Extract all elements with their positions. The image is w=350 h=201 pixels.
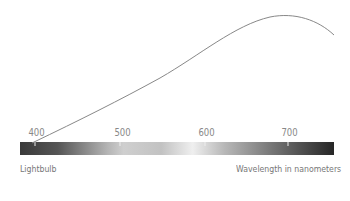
tick-label-700: 700 bbox=[281, 127, 297, 138]
tick-label-400: 400 bbox=[28, 127, 44, 138]
series-label: Lightbulb bbox=[20, 163, 56, 174]
tick-label-500: 500 bbox=[114, 127, 130, 138]
spectrum-bar bbox=[20, 142, 334, 155]
lightbulb-curve bbox=[32, 16, 334, 143]
x-axis-label: Wavelength in nanometers bbox=[236, 163, 341, 174]
tick-label-600: 600 bbox=[198, 127, 214, 138]
